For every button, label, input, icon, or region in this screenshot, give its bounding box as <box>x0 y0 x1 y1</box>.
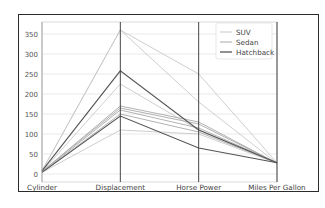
y-tick-label: 300 <box>25 51 38 59</box>
axis-label: Displacement <box>96 183 146 192</box>
y-tick-label: 50 <box>29 151 38 159</box>
axis-labels: CylinderDisplacementHorse PowerMiles Per… <box>27 183 306 192</box>
legend: SUVSedanHatchback <box>216 23 275 59</box>
legend-label: Hatchback <box>236 48 275 57</box>
y-tick-label: 100 <box>25 131 38 139</box>
series-line-suv <box>42 130 277 172</box>
series-line-suv <box>42 84 277 172</box>
parallel-coordinates-chart: 050100150200250300350 CylinderDisplaceme… <box>0 0 325 208</box>
axis-label: Miles Per Gallon <box>248 183 305 192</box>
series-line-sedan <box>42 110 277 172</box>
series-line-sedan <box>42 108 277 172</box>
y-tick-label: 250 <box>25 71 38 79</box>
axis-label: Cylinder <box>27 183 57 192</box>
y-tick-label: 0 <box>34 171 38 179</box>
y-tick-label: 150 <box>25 111 38 119</box>
axis-label: Horse Power <box>176 183 221 192</box>
y-tick-label: 200 <box>25 91 38 99</box>
y-tick-label: 350 <box>25 31 38 39</box>
legend-label: SUV <box>236 28 251 37</box>
y-tick-labels: 050100150200250300350 <box>25 31 38 179</box>
legend-label: Sedan <box>236 38 259 47</box>
